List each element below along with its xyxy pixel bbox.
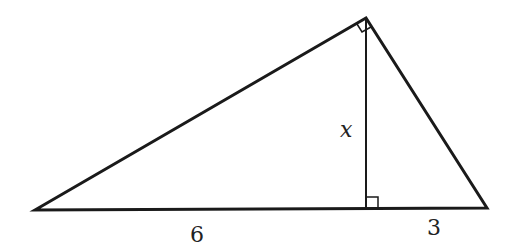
altitude-label: x [340, 117, 353, 142]
triangle [35, 18, 487, 210]
left-segment-label: 6 [190, 222, 204, 247]
triangle-diagram: x 6 3 [0, 0, 514, 251]
right-segment-label: 3 [427, 215, 441, 240]
